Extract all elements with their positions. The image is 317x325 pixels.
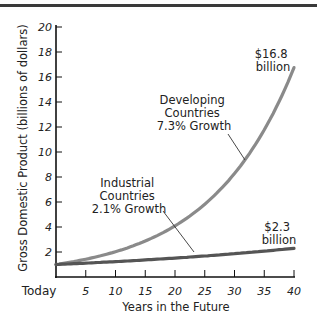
x-tick-label: 35 bbox=[257, 285, 271, 298]
y-axis-title: Gross Domestic Product (billions of doll… bbox=[16, 24, 30, 271]
gdp-growth-chart: 2468101214161820 Today510152025303540 De… bbox=[0, 0, 317, 325]
developing-end-value-unit: billion bbox=[256, 60, 290, 74]
x-tick-label: 40 bbox=[287, 285, 301, 298]
industrial-end-value-amount: $2.3 bbox=[264, 220, 290, 234]
y-axis-ticks: 2468101214161820 bbox=[38, 21, 62, 259]
developing-end-value: $16.8 billion bbox=[255, 47, 292, 74]
developing-annotation-line-2: Countries bbox=[165, 106, 220, 120]
developing-end-value-amount: $16.8 bbox=[255, 47, 288, 61]
x-axis-ticks: Today510152025303540 bbox=[21, 270, 301, 298]
y-tick-label: 16 bbox=[38, 71, 52, 84]
developing-annotation-line-1: Developing bbox=[160, 93, 225, 107]
x-tick-label: 25 bbox=[198, 285, 212, 298]
industrial-annotation-line-1: Industrial bbox=[100, 176, 154, 190]
industrial-end-value: $2.3 billion bbox=[262, 220, 296, 247]
y-tick-label: 10 bbox=[38, 146, 52, 159]
y-tick-label: 8 bbox=[45, 171, 52, 184]
developing-leader-line bbox=[228, 134, 245, 160]
industrial-annotation-line-2: Countries bbox=[100, 189, 155, 203]
developing-annotation: Developing Countries 7.3% Growth bbox=[157, 93, 232, 133]
x-tick-label: 20 bbox=[168, 285, 182, 298]
y-tick-label: 14 bbox=[38, 96, 52, 109]
y-tick-label: 4 bbox=[45, 221, 52, 234]
x-axis-title: Years in the Future bbox=[121, 300, 229, 314]
y-tick-label: 12 bbox=[38, 121, 52, 134]
y-tick-label: 18 bbox=[38, 46, 52, 59]
y-tick-label: 6 bbox=[45, 196, 52, 209]
x-tick-label: 5 bbox=[82, 285, 89, 298]
x-tick-label: 10 bbox=[109, 285, 123, 298]
industrial-annotation-line-3: 2.1% Growth bbox=[92, 202, 167, 216]
top-border-rule bbox=[0, 4, 317, 7]
x-tick-label: Today bbox=[21, 284, 57, 298]
industrial-end-value-unit: billion bbox=[262, 233, 296, 247]
y-tick-label: 2 bbox=[45, 246, 52, 259]
industrial-annotation: Industrial Countries 2.1% Growth bbox=[92, 176, 167, 216]
x-tick-label: 30 bbox=[228, 285, 242, 298]
developing-annotation-line-3: 7.3% Growth bbox=[157, 119, 232, 133]
x-tick-label: 15 bbox=[138, 285, 152, 298]
y-tick-label: 20 bbox=[38, 21, 52, 34]
